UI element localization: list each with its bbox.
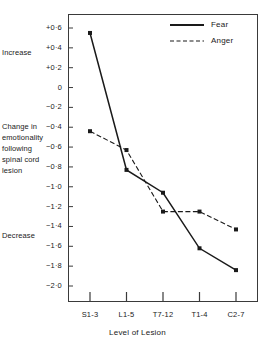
x-tick-label: T7-12 xyxy=(153,311,174,319)
y-tick-label: +0·2 xyxy=(46,64,62,72)
data-point-marker xyxy=(161,191,165,195)
data-point-marker xyxy=(125,148,129,152)
y-tick-label: −2·0 xyxy=(46,282,62,290)
annotation-axis-caption-line-2: emotionality xyxy=(2,133,43,142)
x-tick-label: S1-3 xyxy=(82,311,99,319)
data-point-marker xyxy=(125,168,129,172)
series-line-anger xyxy=(90,131,236,229)
annotation-increase: Increase xyxy=(2,48,32,57)
legend-item-anger: Anger xyxy=(170,34,256,47)
y-tick-label: −0·6 xyxy=(46,143,62,151)
annotation-axis-caption-line-1: Change in xyxy=(2,122,37,131)
data-point-marker xyxy=(198,246,202,250)
legend-item-fear: Fear xyxy=(170,18,256,31)
plot-series-layer xyxy=(68,14,258,302)
y-tick-label: −1·2 xyxy=(46,203,62,211)
legend-label: Fear xyxy=(211,20,228,29)
annotation-decrease: Decrease xyxy=(2,231,35,240)
x-tick-label: L1-5 xyxy=(119,311,135,319)
x-tick-label: T1-4 xyxy=(191,311,207,319)
data-point-marker xyxy=(161,210,165,214)
y-tick-label: −1·8 xyxy=(46,262,62,270)
data-point-marker xyxy=(234,227,238,231)
legend-line-swatch xyxy=(170,21,204,29)
y-tick-label: −0·4 xyxy=(46,123,62,131)
data-point-marker xyxy=(88,31,92,35)
y-tick-label: 0 xyxy=(58,84,62,92)
y-tick-label: −1·6 xyxy=(46,242,62,250)
chart-legend: FearAnger xyxy=(170,18,256,50)
data-point-marker xyxy=(88,129,92,133)
annotation-axis-caption-line-5: lesion xyxy=(2,166,22,175)
legend-line-swatch xyxy=(170,37,204,45)
data-point-marker xyxy=(198,210,202,214)
legend-label: Anger xyxy=(211,36,233,45)
x-axis-title: Level of Lesion xyxy=(0,328,275,337)
annotation-axis-caption-line-4: spinal cord xyxy=(2,155,39,164)
y-tick-label: −1·0 xyxy=(46,183,62,191)
data-point-marker xyxy=(234,268,238,272)
x-tick-label: C2-7 xyxy=(227,311,244,319)
y-tick-label: +0·4 xyxy=(46,44,62,52)
series-line-fear xyxy=(90,33,236,270)
annotation-axis-caption-line-3: following xyxy=(2,144,32,153)
y-tick-label: −0·8 xyxy=(46,163,62,171)
y-tick-label: +0·6 xyxy=(46,24,62,32)
y-tick-label: −0·2 xyxy=(46,103,62,111)
line-chart: +0·6+0·4+0·20−0·2−0·4−0·6−0·8−1·0−1·2−1·… xyxy=(0,0,275,341)
y-tick-label: −1·4 xyxy=(46,222,62,230)
